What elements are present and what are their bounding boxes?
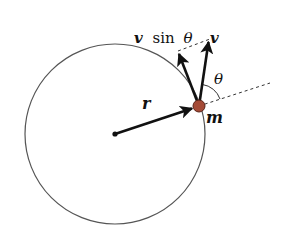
velocity-label: v (210, 29, 219, 47)
v-sin-theta-sin-part: sin (153, 29, 175, 47)
circular-motion-diagram: v sin θ v θ r m (0, 0, 289, 249)
v-sin-theta-label: v sin θ (134, 29, 192, 47)
v-sin-theta-v-part: v (134, 29, 143, 47)
mass-label: m (206, 108, 223, 127)
velocity-perpendicular-component-arrow (179, 54, 199, 106)
center-point (112, 131, 117, 136)
v-sin-theta-theta-part: θ (183, 29, 192, 47)
mass-particle (193, 100, 205, 112)
velocity-vector-arrow (199, 42, 209, 106)
radius-vector-arrow (115, 109, 192, 135)
theta-label: θ (214, 70, 223, 88)
radius-label: r (142, 94, 152, 113)
